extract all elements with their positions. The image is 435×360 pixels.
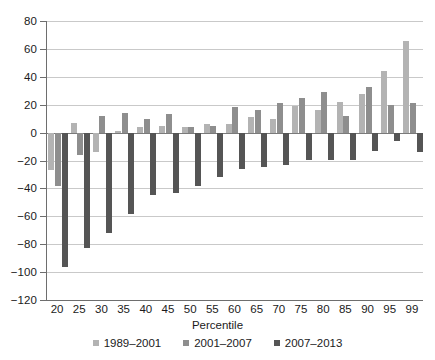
bar-2007-2013-80 xyxy=(328,133,334,161)
legend-label: 1989–2001 xyxy=(104,337,162,349)
plot-area: 806040200−20−40−60−80−100−120 xyxy=(46,21,423,300)
bar-1989-2001-45 xyxy=(159,126,165,133)
x-axis-label-90: 90 xyxy=(361,303,374,315)
x-axis-line xyxy=(46,300,423,301)
bar-group xyxy=(380,21,402,300)
x-axis-label-50: 50 xyxy=(184,303,197,315)
bar-2007-2013-25 xyxy=(84,133,90,249)
bar-2007-2013-99 xyxy=(417,133,423,153)
legend-swatch-icon xyxy=(274,340,280,346)
bar-2001-2007-99 xyxy=(410,103,416,132)
bar-group xyxy=(269,21,291,300)
x-axis-label-40: 40 xyxy=(139,303,152,315)
x-axis-label-70: 70 xyxy=(272,303,285,315)
y-axis-label: 40 xyxy=(24,71,37,83)
bar-2001-2007-40 xyxy=(144,119,150,133)
legend-swatch-icon xyxy=(183,340,189,346)
bar-1989-2001-55 xyxy=(204,124,210,132)
y-axis-tick xyxy=(40,77,47,78)
bar-1989-2001-40 xyxy=(137,127,143,133)
y-axis-tick xyxy=(40,49,47,50)
bar-group xyxy=(291,21,313,300)
y-axis-tick xyxy=(40,188,47,189)
bar-group xyxy=(313,21,335,300)
y-axis-tick xyxy=(40,161,47,162)
x-axis-label-25: 25 xyxy=(73,303,86,315)
bar-1989-2001-35 xyxy=(115,131,121,132)
bar-2007-2013-45 xyxy=(173,133,179,193)
bar-2007-2013-70 xyxy=(283,133,289,165)
bar-2007-2013-90 xyxy=(372,133,378,151)
bar-2001-2007-35 xyxy=(122,113,128,133)
bar-2001-2007-30 xyxy=(99,116,105,133)
y-axis-tick xyxy=(40,244,47,245)
bar-2007-2013-35 xyxy=(128,133,134,214)
bar-1989-2001-50 xyxy=(182,127,188,133)
y-axis-tick xyxy=(40,272,47,273)
bar-1989-2001-60 xyxy=(226,124,232,132)
bar-2001-2007-70 xyxy=(277,103,283,132)
x-axis-label-20: 20 xyxy=(51,303,64,315)
y-axis-label: −60 xyxy=(17,210,37,222)
bar-2001-2007-75 xyxy=(299,98,305,133)
y-axis-label: −80 xyxy=(17,238,37,250)
bar-group xyxy=(247,21,269,300)
legend-label: 2007–2013 xyxy=(285,337,343,349)
bar-2007-2013-95 xyxy=(394,133,400,141)
bar-1989-2001-80 xyxy=(315,110,321,132)
bar-2007-2013-75 xyxy=(306,133,312,161)
bar-group xyxy=(158,21,180,300)
x-axis-label-35: 35 xyxy=(117,303,130,315)
bar-1989-2001-70 xyxy=(270,119,276,133)
bar-1989-2001-75 xyxy=(292,106,298,133)
bar-2001-2007-90 xyxy=(366,87,372,133)
bar-2007-2013-55 xyxy=(217,133,223,178)
y-axis-label: 60 xyxy=(24,43,37,55)
legend-item-2[interactable]: 2001–2007 xyxy=(183,337,252,349)
x-axis-label-80: 80 xyxy=(317,303,330,315)
y-axis-tick xyxy=(40,216,47,217)
bar-2001-2007-55 xyxy=(210,126,216,133)
legend-swatch-icon xyxy=(93,340,99,346)
bar-2007-2013-60 xyxy=(239,133,245,169)
bar-group xyxy=(335,21,357,300)
y-axis-tick xyxy=(40,105,47,106)
bar-2007-2013-50 xyxy=(195,133,201,186)
x-axis-label-99: 99 xyxy=(406,303,419,315)
bar-1989-2001-85 xyxy=(337,102,343,133)
y-axis-tick xyxy=(40,21,47,22)
y-axis-label: 20 xyxy=(24,99,37,111)
bar-1989-2001-99 xyxy=(403,41,409,133)
legend-item-3[interactable]: 2007–2013 xyxy=(274,337,343,349)
y-axis-label: 0 xyxy=(31,127,38,139)
bar-2001-2007-95 xyxy=(388,105,394,133)
x-axis-label-75: 75 xyxy=(295,303,308,315)
x-axis-title: Percentile xyxy=(0,319,435,331)
x-axis-label-65: 65 xyxy=(250,303,263,315)
legend-item-1[interactable]: 1989–2001 xyxy=(93,337,162,349)
y-axis-label: −40 xyxy=(17,182,37,194)
bar-group xyxy=(402,21,424,300)
bar-2007-2013-20 xyxy=(62,133,68,267)
bar-group xyxy=(224,21,246,300)
bar-2001-2007-45 xyxy=(166,114,172,132)
y-axis-label: −120 xyxy=(11,294,37,306)
bar-group xyxy=(47,21,69,300)
bar-2001-2007-20 xyxy=(55,133,61,186)
bar-2007-2013-85 xyxy=(350,133,356,161)
bar-group xyxy=(180,21,202,300)
bar-1989-2001-20 xyxy=(48,133,54,171)
bar-2001-2007-50 xyxy=(188,127,194,133)
y-axis-tick xyxy=(40,133,47,134)
bar-1989-2001-90 xyxy=(359,94,365,133)
x-axis-label-55: 55 xyxy=(206,303,219,315)
bar-2007-2013-30 xyxy=(106,133,112,233)
bar-group xyxy=(69,21,91,300)
bar-2001-2007-25 xyxy=(77,133,83,155)
x-axis-label-95: 95 xyxy=(383,303,396,315)
bar-2007-2013-65 xyxy=(261,133,267,168)
x-axis-label-45: 45 xyxy=(162,303,175,315)
y-axis-label: 80 xyxy=(24,15,37,27)
bar-chart: 806040200−20−40−60−80−100−120 Percentile… xyxy=(0,0,435,360)
bar-group xyxy=(202,21,224,300)
